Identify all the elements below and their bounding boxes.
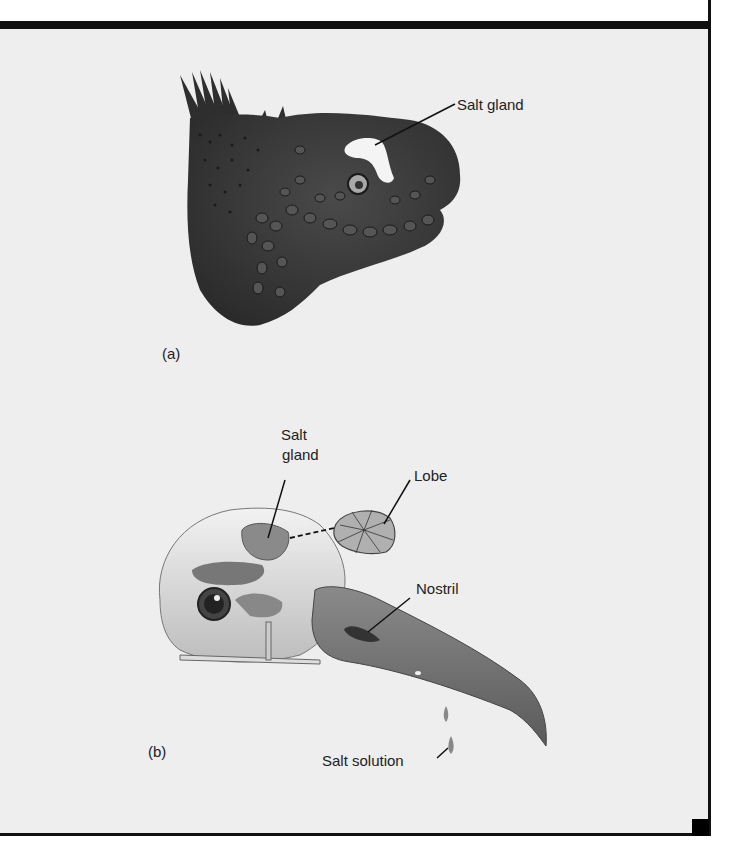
salt-gland-label-a: Salt gland xyxy=(457,96,524,113)
salt-drop-icon xyxy=(444,706,449,722)
panel-b-label: (b) xyxy=(148,743,166,760)
salt-gland-label-b-line1: Salt xyxy=(281,426,307,443)
iguana-head-illustration xyxy=(180,70,460,326)
bird-skull-illustration xyxy=(159,480,546,758)
lobe-label: Lobe xyxy=(414,467,447,484)
salt-solution-label: Salt solution xyxy=(322,752,404,769)
panel-a-label: (a) xyxy=(162,345,180,362)
figure-illustration xyxy=(0,0,750,856)
salt-drop-icon xyxy=(448,736,453,754)
nostril-label: Nostril xyxy=(416,580,459,597)
lobe-icon xyxy=(334,511,395,554)
salt-gland-label-b-line2: gland xyxy=(282,446,319,463)
